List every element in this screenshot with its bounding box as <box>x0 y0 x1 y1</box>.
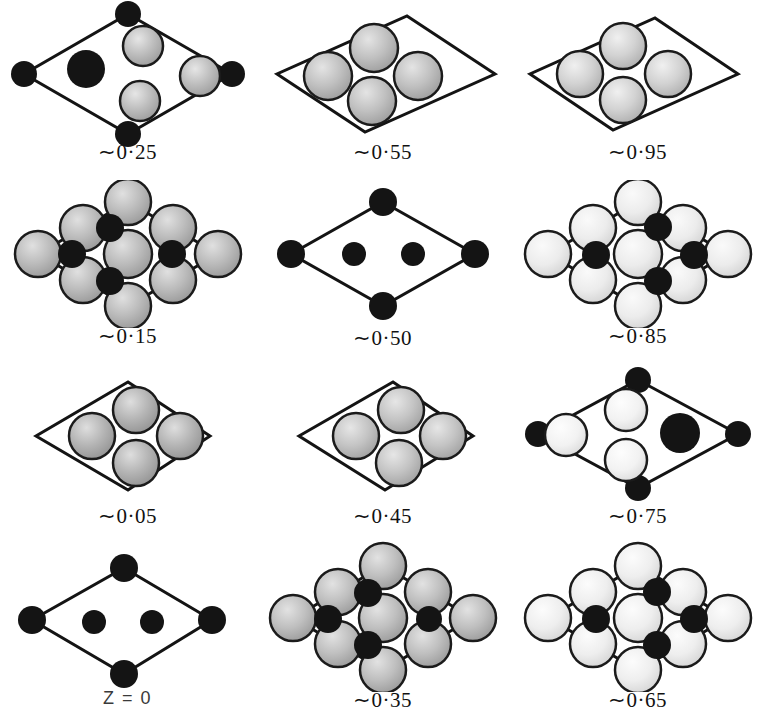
unit-cell-corners-only <box>0 540 255 692</box>
atom-black-lower <box>354 631 382 659</box>
panel-label: ∼0·50 <box>255 326 510 351</box>
atom-grey-right <box>180 56 220 96</box>
atom-black-lower <box>644 267 672 295</box>
atom-black-right <box>416 606 442 632</box>
panel-z-0-25: ∼0·25 <box>0 0 255 180</box>
atom-grey-bottom <box>113 440 159 486</box>
panel-label: ∼0·45 <box>255 504 510 529</box>
atom-black-right <box>680 605 708 633</box>
corner-atom-right <box>219 61 245 87</box>
corner-atom-left <box>525 595 571 641</box>
atom-black-upper <box>644 213 672 241</box>
rhombus-outline <box>32 568 212 674</box>
atom-grey-right <box>420 413 466 459</box>
panel-diagram <box>510 540 765 692</box>
atom-black-left <box>582 605 610 633</box>
atom-black-large <box>67 50 105 88</box>
unit-cell-sparse-light <box>510 360 765 508</box>
atom-grey-right <box>157 413 203 459</box>
atom-grey-right <box>645 51 691 97</box>
corner-atom-top <box>110 554 138 582</box>
corner-atom-top <box>115 1 141 27</box>
panel-z-0-45: ∼0·45 <box>255 360 510 540</box>
atom-black-upper <box>96 214 124 242</box>
unit-cell-four-grey <box>255 0 510 148</box>
atom-black-left <box>582 241 610 269</box>
corner-atom-right <box>450 595 496 641</box>
atom-grey-bottom <box>376 440 422 486</box>
unit-cell-four-grey <box>0 360 255 508</box>
atom-grey-left <box>69 413 115 459</box>
panel-diagram <box>0 0 255 148</box>
panel-z-0: Z = 0 <box>0 540 255 727</box>
atom-black-lower <box>643 631 671 659</box>
corner-atom-bottom <box>110 660 138 688</box>
atom-grey-lower <box>120 81 160 121</box>
panel-label: Z = 0 <box>0 688 255 709</box>
interior-atom-right <box>140 610 164 634</box>
panel-label: ∼0·85 <box>510 324 765 349</box>
interior-atom-right <box>401 242 425 266</box>
atom-grey-left <box>304 52 352 100</box>
panel-z-0-85: ∼0·85 <box>510 180 765 360</box>
panel-label: ∼0·15 <box>0 324 255 349</box>
panel-diagram <box>510 0 765 148</box>
atom-grey-upper <box>123 26 163 66</box>
panel-z-0-05: ∼0·05 <box>0 360 255 540</box>
corner-atom-top <box>369 188 397 216</box>
panel-label: ∼0·35 <box>255 688 510 713</box>
unit-cell-four-grey <box>255 360 510 508</box>
panel-diagram <box>510 360 765 508</box>
atom-grey-top <box>113 387 159 433</box>
panel-diagram <box>0 360 255 508</box>
panel-label: ∼0·65 <box>510 688 765 713</box>
panel-z-0-55: ∼0·55 <box>255 0 510 180</box>
atom-black-left <box>314 605 342 633</box>
panel-diagram <box>255 0 510 148</box>
panel-label: ∼0·95 <box>510 140 765 165</box>
panel-diagram <box>255 540 510 692</box>
unit-cell-dense-grey <box>0 180 255 328</box>
corner-atom-right <box>198 606 226 634</box>
atom-black-upper <box>354 579 382 607</box>
panel-z-0-65: ∼0·65 <box>510 540 765 727</box>
corner-atom-right <box>705 231 751 277</box>
panel-diagram <box>0 540 255 692</box>
corner-atom-left <box>277 240 305 268</box>
corner-atom-right <box>461 240 489 268</box>
atom-light-left <box>545 414 587 456</box>
atom-light-upper <box>605 389 647 431</box>
panel-label: ∼0·75 <box>510 504 765 529</box>
panel-z-0-75: ∼0·75 <box>510 360 765 540</box>
atom-grey-left <box>333 413 379 459</box>
unit-cell-dense-light <box>510 540 765 692</box>
corner-atom-bottom <box>369 292 397 320</box>
atom-grey-bottom <box>348 77 396 125</box>
panel-diagram <box>510 180 765 328</box>
corner-atom-left <box>11 61 37 87</box>
unit-cell-corners-only <box>255 180 510 328</box>
rhombus-outline <box>291 202 475 306</box>
interior-atom-left <box>342 242 366 266</box>
atom-light-lower <box>605 439 647 481</box>
atom-black-left <box>58 240 86 268</box>
crystal-layer-figure: ∼0·25 ∼0·55 <box>0 0 766 727</box>
corner-atom-left <box>270 595 316 641</box>
interior-atom-left <box>82 610 106 634</box>
atom-grey-top <box>378 387 424 433</box>
panel-diagram <box>255 180 510 328</box>
unit-cell-four-grey <box>510 0 765 148</box>
corner-atom-left <box>18 606 46 634</box>
unit-cell-sparse-dark <box>0 0 255 148</box>
corner-atom-left <box>15 231 61 277</box>
corner-atom-right <box>705 595 751 641</box>
atom-black-lower <box>96 267 124 295</box>
panel-z-0-95: ∼0·95 <box>510 0 765 180</box>
unit-cell-dense-grey <box>255 540 510 692</box>
atom-black-upper <box>643 578 671 606</box>
corner-atom-left <box>525 231 571 277</box>
atom-black-right <box>680 241 708 269</box>
atom-black-large <box>660 413 700 453</box>
panel-z-0-15: ∼0·15 <box>0 180 255 360</box>
panel-z-0-50: ∼0·50 <box>255 180 510 360</box>
